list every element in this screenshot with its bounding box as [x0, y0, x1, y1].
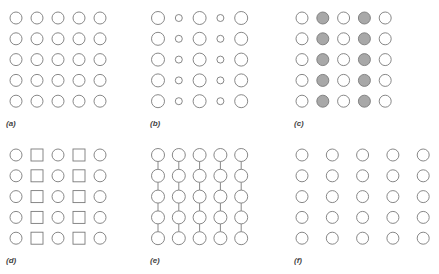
circle-shape [235, 169, 248, 182]
panel-b: (b) [150, 12, 248, 129]
circle-shape [94, 211, 106, 223]
circle-shape [214, 190, 227, 203]
circle-shape [52, 12, 64, 24]
circle-shape [387, 170, 399, 182]
circle-shape [417, 191, 429, 203]
circle-shape [193, 190, 206, 203]
square-shape [31, 232, 43, 244]
square-shape [31, 191, 43, 203]
square-shape [31, 149, 43, 161]
circle-shape [296, 232, 308, 244]
square-shape [73, 170, 85, 182]
circle-shape [52, 54, 64, 66]
circle-shape [326, 232, 338, 244]
circle-shape [326, 170, 338, 182]
circle-shape [193, 95, 206, 108]
circle-shape [193, 169, 206, 182]
circle-shape [296, 33, 308, 45]
circle-shape [379, 74, 391, 86]
circle-shape [52, 149, 64, 161]
circle-shape [10, 232, 22, 244]
circle-shape [94, 95, 106, 107]
circle-shape [172, 232, 185, 245]
circle-shape [52, 33, 64, 45]
circle-shape [193, 232, 206, 245]
circle-shape [52, 95, 64, 107]
circle-shape [326, 149, 338, 161]
circle-shape [172, 149, 185, 162]
circle-shape [73, 12, 85, 24]
circle-shape [214, 149, 227, 162]
circle-shape [94, 33, 106, 45]
circle-shape [94, 54, 106, 66]
circle-shape [52, 211, 64, 223]
circle-shape [52, 191, 64, 203]
circle-shape [217, 56, 224, 63]
circle-shape [10, 74, 22, 86]
circle-shape [235, 232, 248, 245]
circle-shape [73, 33, 85, 45]
circle-shape [172, 169, 185, 182]
circle-shape [175, 56, 182, 63]
circle-shape [172, 190, 185, 203]
circle-shape [338, 74, 350, 86]
circle-shape [217, 15, 224, 22]
circle-shape [94, 74, 106, 86]
circle-shape [10, 12, 22, 24]
circle-shape [357, 191, 369, 203]
filled-circle-shape [317, 33, 329, 45]
circle-shape [296, 54, 308, 66]
circle-shape [10, 54, 22, 66]
circle-shape [10, 211, 22, 223]
filled-circle-shape [358, 74, 370, 86]
panel-f: (f) [294, 149, 429, 265]
filled-circle-shape [358, 95, 370, 107]
circle-shape [296, 12, 308, 24]
circle-shape [172, 211, 185, 224]
circle-shape [326, 191, 338, 203]
circle-shape [52, 74, 64, 86]
filled-circle-shape [317, 54, 329, 66]
circle-shape [379, 95, 391, 107]
filled-circle-shape [317, 12, 329, 24]
circle-shape [94, 170, 106, 182]
circle-shape [94, 149, 106, 161]
circle-shape [152, 95, 165, 108]
circle-shape [10, 170, 22, 182]
circle-shape [10, 149, 22, 161]
circle-shape [31, 95, 43, 107]
circle-shape [235, 12, 248, 25]
square-shape [73, 211, 85, 223]
panel-label-c: (c) [294, 119, 304, 128]
circle-shape [326, 211, 338, 223]
filled-circle-shape [358, 54, 370, 66]
panel-d: (d) [6, 149, 106, 265]
circle-shape [94, 12, 106, 24]
circle-shape [235, 32, 248, 45]
circle-shape [417, 232, 429, 244]
circle-shape [52, 232, 64, 244]
circle-shape [357, 149, 369, 161]
circle-shape [296, 170, 308, 182]
circle-shape [387, 232, 399, 244]
circle-shape [175, 15, 182, 22]
circle-shape [152, 232, 165, 245]
circle-shape [296, 211, 308, 223]
square-shape [31, 170, 43, 182]
circle-shape [152, 74, 165, 87]
circle-shape [379, 54, 391, 66]
circle-shape [214, 211, 227, 224]
circle-shape [152, 12, 165, 25]
circle-shape [417, 211, 429, 223]
circle-shape [417, 170, 429, 182]
circle-shape [175, 98, 182, 105]
circle-shape [379, 33, 391, 45]
circle-shape [31, 33, 43, 45]
circle-shape [193, 32, 206, 45]
filled-circle-shape [317, 95, 329, 107]
circle-shape [152, 190, 165, 203]
circle-shape [379, 12, 391, 24]
circle-shape [387, 191, 399, 203]
circle-shape [94, 191, 106, 203]
circle-shape [10, 191, 22, 203]
